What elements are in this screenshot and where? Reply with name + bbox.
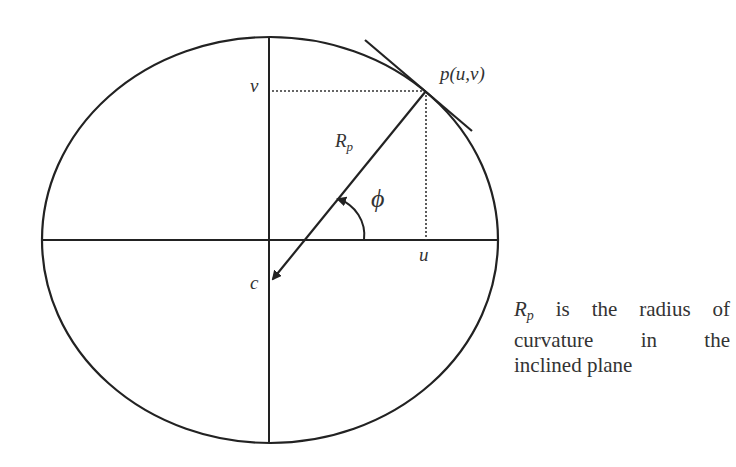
caption-line-2: curvature in the bbox=[514, 328, 730, 353]
caption-symbol: Rp bbox=[514, 297, 534, 321]
point-label: p(u,v) bbox=[440, 64, 485, 83]
u-label: u bbox=[419, 245, 429, 264]
v-label: v bbox=[250, 76, 258, 95]
radius-label: Rp bbox=[335, 131, 353, 153]
ellipse-diagram bbox=[0, 0, 736, 467]
center-label: c bbox=[250, 273, 258, 292]
radius-sub: p bbox=[347, 139, 354, 154]
angle-arc bbox=[338, 199, 364, 240]
radius-main: R bbox=[335, 130, 347, 151]
angle-label: ϕ bbox=[371, 186, 384, 212]
caption: Rp is the radius of curvature in the inc… bbox=[514, 297, 730, 378]
caption-line-1: Rp is the radius of bbox=[514, 297, 730, 328]
radius-arrow bbox=[273, 91, 426, 279]
tangent-line bbox=[365, 40, 472, 131]
caption-line-3: inclined plane bbox=[514, 353, 730, 378]
